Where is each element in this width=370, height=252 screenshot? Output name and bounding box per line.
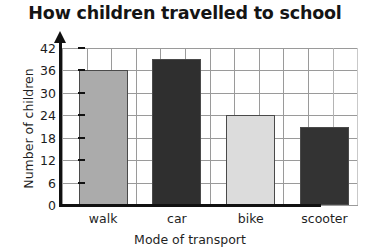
x-axis-line [59, 204, 321, 207]
y-axis-tick-label: 18 [26, 130, 56, 145]
y-axis-tick-mark [78, 182, 85, 184]
bar-chart: How children travelled to school Number … [0, 0, 370, 252]
gridline-vertical [210, 48, 211, 205]
x-axis-label-scooter: scooter [301, 211, 347, 226]
x-axis-label-bike: bike [238, 211, 264, 226]
y-axis-ticks: 06121824303642 [22, 48, 56, 205]
gridline-vertical [283, 48, 284, 205]
bar-bike [226, 115, 275, 205]
y-axis-tick-label: 36 [26, 63, 56, 78]
y-axis-tick-mark [78, 159, 85, 161]
x-axis-label-walk: walk [89, 211, 118, 226]
y-axis-tick-label: 6 [26, 175, 56, 190]
y-axis-tick-label: 24 [26, 108, 56, 123]
x-axis-label-car: car [167, 211, 187, 226]
bar-walk [79, 70, 128, 205]
y-axis-line [59, 40, 62, 207]
y-axis-tick-mark [78, 137, 85, 139]
y-axis-tick-mark [78, 47, 85, 49]
chart-title: How children travelled to school [0, 3, 370, 23]
y-axis-tick-label: 0 [26, 198, 56, 213]
y-axis-tick-mark [78, 92, 85, 94]
gridline-vertical [136, 48, 137, 205]
gridline-vertical [357, 48, 358, 205]
y-axis-tick-mark [78, 69, 85, 71]
y-axis-tick-mark [78, 204, 85, 206]
bar-car [152, 59, 201, 205]
y-axis-tick-mark [78, 114, 85, 116]
gridline-vertical [62, 48, 63, 205]
y-axis-tick-label: 42 [26, 41, 56, 56]
plot-area [62, 48, 358, 205]
x-axis-title: Mode of transport [40, 232, 340, 247]
bar-scooter [300, 127, 349, 206]
y-axis-tick-label: 30 [26, 85, 56, 100]
y-axis-tick-label: 12 [26, 153, 56, 168]
